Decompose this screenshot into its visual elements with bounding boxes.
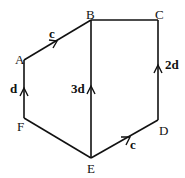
vector-diagram: A B C D E F c d 3d 2d c xyxy=(0,0,185,178)
edge-de xyxy=(91,120,158,158)
point-label-b: B xyxy=(86,7,95,22)
point-label-d: D xyxy=(159,123,168,138)
vector-label-fa: d xyxy=(10,81,18,96)
vector-label-ab: c xyxy=(49,26,55,41)
vector-label-eb: 3d xyxy=(71,81,86,96)
vector-label-ed: c xyxy=(130,137,136,152)
point-label-a: A xyxy=(15,52,25,67)
edge-ef xyxy=(24,118,91,158)
point-label-f: F xyxy=(17,119,24,134)
edge-ab xyxy=(24,20,91,60)
point-label-e: E xyxy=(87,161,95,176)
point-label-c: C xyxy=(155,7,164,22)
vector-label-dc: 2d xyxy=(165,57,180,72)
